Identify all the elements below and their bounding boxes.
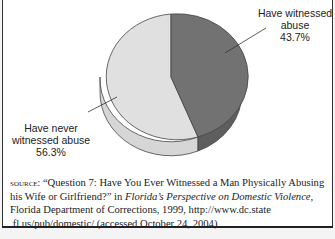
source-rest: Florida Department of Corrections, 1999,… xyxy=(10,204,271,228)
label-never-text2: witnessed abuse xyxy=(6,134,96,146)
label-never-pct: 56.3% xyxy=(6,146,96,158)
label-witnessed-text2: abuse xyxy=(256,19,334,31)
label-never-text1: Have never xyxy=(6,122,96,134)
source-citation: source: “Question 7: Have You Ever Witne… xyxy=(10,176,328,230)
frame-bottom-border xyxy=(2,226,333,228)
source-prefix: source: xyxy=(10,178,40,188)
label-never: Have never witnessed abuse 56.3% xyxy=(6,122,96,158)
source-title: Florida’s Perspective on Domestic Violen… xyxy=(125,191,313,202)
label-witnessed-text1: Have witnessed xyxy=(256,7,334,19)
label-witnessed-pct: 43.7% xyxy=(256,31,334,43)
label-witnessed: Have witnessed abuse 43.7% xyxy=(256,7,334,43)
